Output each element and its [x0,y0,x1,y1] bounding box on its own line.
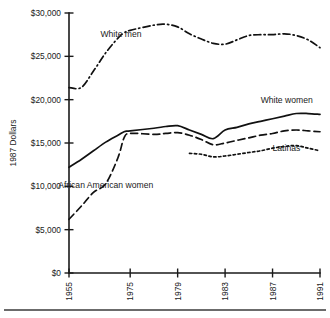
y-axis-title: 1987 Dollars [8,119,18,166]
x-axis: 195519751979198319871991 [64,269,325,301]
chart-figure: $0$5,000$10,000$15,000$20,000$25,000$30,… [0,0,330,318]
y-axis-tick-label: $30,000 [31,8,62,18]
x-axis-tick-label: 1975 [125,282,135,301]
series-label-latinas: Latinas [273,143,301,153]
y-axis-tick-label: $5,000 [35,225,61,235]
y-axis-tick-label: $20,000 [31,95,62,105]
y-axis-title-text: 1987 Dollars [8,119,18,166]
y-axis-tick-label: $15,000 [31,138,62,148]
x-axis-tick-label: 1979 [173,282,183,301]
y-axis-tick-label: $25,000 [31,51,62,61]
x-axis-tick-label: 1983 [220,282,230,301]
series-label-white-women: White women [261,95,313,105]
series-line-white-women [69,113,320,167]
y-axis-tick-label: $10,000 [31,181,62,191]
x-axis-tick-label: 1991 [315,282,325,301]
y-axis-tick-label: $0 [52,268,62,278]
series-line-latinas [190,146,321,157]
series-label-african-american-women: African American women [58,180,153,190]
x-axis-tick-label: 1987 [268,282,278,301]
series-labels: White menWhite womenAfrican American wom… [58,29,313,190]
y-axis: $0$5,000$10,000$15,000$20,000$25,000$30,… [31,8,74,278]
x-axis-tick-label: 1955 [64,282,74,301]
series-label-white-men: White men [100,29,141,39]
line-chart: $0$5,000$10,000$15,000$20,000$25,000$30,… [0,0,330,318]
